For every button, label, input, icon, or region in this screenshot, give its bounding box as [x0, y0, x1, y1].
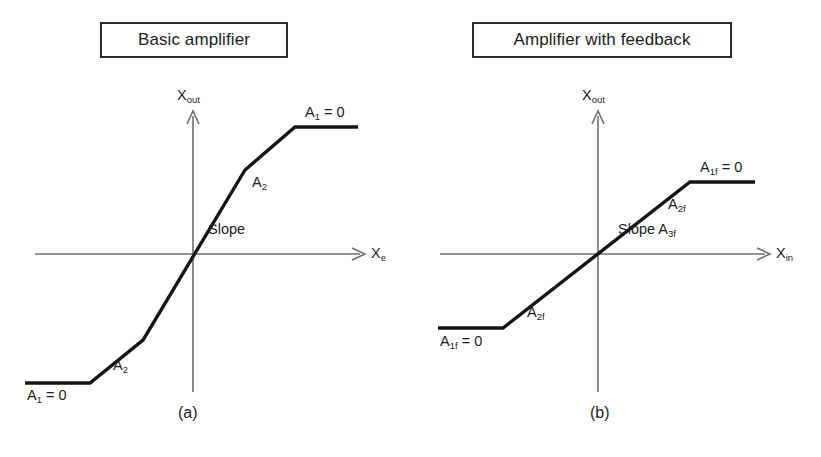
panel-a-lower-gain-label: A2	[113, 358, 128, 373]
panel-b-lower-gain-sub: 2f	[537, 311, 545, 322]
panel-b-y-axis-label: Xout	[582, 88, 605, 103]
panel-b-x-axis-label: Xin	[776, 246, 793, 261]
panel-b-lower-saturation-base: A	[440, 333, 450, 349]
panel-b-lower-saturation-sub: 1f	[450, 340, 458, 351]
panel-b-x-axis-label-base: X	[776, 245, 786, 261]
panel-a-lower-gain-sub: 2	[123, 364, 128, 375]
figure-root: Basic amplifier Xout Xe A1 = 0 A2 Slope	[0, 0, 821, 457]
panel-a-lower-saturation-label: A1 = 0	[27, 388, 67, 403]
panel-b-y-axis-label-sub: out	[592, 94, 605, 105]
panel-a-y-axis-label-base: X	[177, 87, 187, 103]
panel-b-upper-saturation-label: A1f = 0	[700, 160, 742, 175]
panel-a-upper-gain-label: A2	[252, 175, 267, 190]
panel-a-x-axis-label: Xe	[371, 246, 386, 261]
panel-b-slope-sub: 3f	[668, 228, 676, 239]
panel-b-lower-saturation-tail: = 0	[458, 333, 483, 349]
panel-a-x-axis-label-sub: e	[381, 252, 386, 263]
panel-b-upper-gain-sub: 2f	[678, 203, 686, 214]
panel-b-slope-base: Slope A	[618, 221, 668, 237]
panel-a-y-axis-label: Xout	[177, 88, 200, 103]
panel-a-upper-gain-sub: 2	[262, 181, 267, 192]
panel-b-upper-saturation-base: A	[700, 159, 710, 175]
panel-b-lower-gain-label: A2f	[527, 305, 545, 320]
panel-a-transfer-curve	[25, 127, 358, 383]
panel-a-lower-saturation-tail: = 0	[42, 387, 67, 403]
panel-b-upper-gain-base: A	[668, 196, 678, 212]
panel-a-x-axis-label-base: X	[371, 245, 381, 261]
panel-a-upper-saturation-base: A	[305, 104, 315, 120]
panel-b-lower-gain-base: A	[527, 304, 537, 320]
panel-b-y-axis-label-base: X	[582, 87, 592, 103]
panel-b-transfer-curve	[438, 182, 755, 328]
panel-a-lower-saturation-base: A	[27, 387, 37, 403]
panel-amplifier-with-feedback: Amplifier with feedback Xout Xin A1f = 0…	[410, 0, 821, 457]
panel-basic-amplifier: Basic amplifier Xout Xe A1 = 0 A2 Slope	[0, 0, 410, 457]
panel-a-upper-saturation-tail: = 0	[320, 104, 345, 120]
panel-b-caption: (b)	[590, 404, 610, 422]
panel-b-plot	[410, 0, 821, 457]
panel-b-x-axis-label-sub: in	[786, 252, 793, 263]
panel-a-y-axis-label-sub: out	[187, 94, 200, 105]
panel-a-upper-saturation-label: A1 = 0	[305, 105, 345, 120]
panel-a-lower-gain-base: A	[113, 357, 123, 373]
panel-b-upper-gain-label: A2f	[668, 197, 686, 212]
panel-b-slope-label: Slope A3f	[618, 222, 676, 237]
panel-a-caption: (a)	[178, 404, 198, 422]
panel-b-upper-saturation-sub: 1f	[710, 166, 718, 177]
panel-b-upper-saturation-tail: = 0	[718, 159, 743, 175]
panel-a-upper-gain-base: A	[252, 174, 262, 190]
panel-a-lower-saturation-sub: 1	[37, 394, 42, 405]
panel-a-slope-label: Slope	[208, 222, 245, 237]
panel-a-upper-saturation-sub: 1	[315, 111, 320, 122]
panel-b-lower-saturation-label: A1f = 0	[440, 334, 482, 349]
